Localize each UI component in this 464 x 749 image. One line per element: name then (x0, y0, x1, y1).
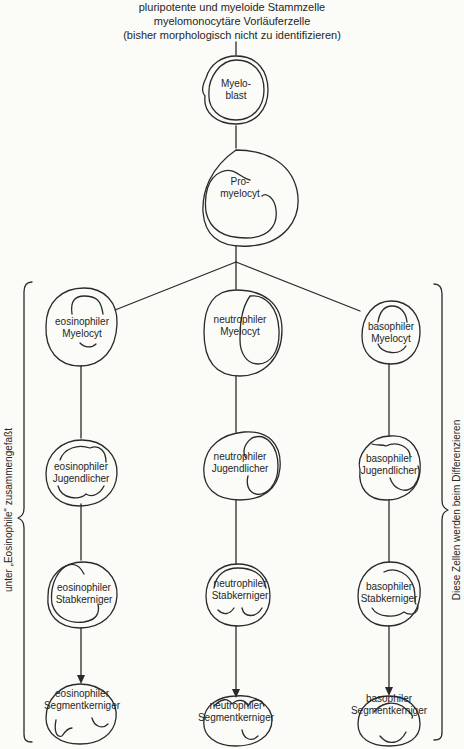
right-bracket (434, 284, 448, 740)
label-promyelocyt: Pro- myelocyt (220, 176, 259, 200)
label-neutrophil-juvenile: neutrophiler Jugendlicher (212, 451, 269, 475)
label-basophil-band: basophiler Stabkerniger (361, 581, 418, 605)
left-bracket-label: unter „Eosinophile“ zusammengefaßt (3, 428, 14, 592)
label-neutrophil-segmented: neutrophiler Segmentkerniger (198, 700, 274, 724)
left-bracket (18, 282, 32, 742)
right-bracket-label: Diese Zellen werden beim Differenzieren (451, 420, 462, 600)
label-basophil-segmented: basophiler Segmentkerniger (351, 693, 427, 717)
label-neutrophil-myelocyte: neutrophiler Myelocyt (214, 314, 267, 338)
label-eosinophil-band: eosinophiler Stabkerniger (56, 582, 113, 606)
label-eosinophil-juvenile: eosinophiler Jugendlicher (53, 461, 110, 485)
label-basophil-juvenile: basophiler Jugendlicher (361, 453, 418, 477)
label-eosinophil-segmented: eosinophiler Segmentkerniger (44, 688, 120, 712)
label-neutrophil-band: neutrophiler Stabkerniger (212, 578, 269, 602)
label-basophil-myelocyte: basophiler Myelocyt (368, 321, 414, 345)
lineage-diagram (0, 0, 464, 749)
label-myeloblast: Myelo- blast (221, 78, 251, 102)
label-eosinophil-myelocyte: eosinophiler Myelocyt (55, 316, 109, 340)
arrowheads (77, 675, 393, 698)
